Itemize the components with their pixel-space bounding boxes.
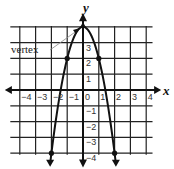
- x-tick-label: −2: [53, 92, 63, 102]
- x-axis-left-arrow-icon: [5, 86, 12, 94]
- x-tick-label: −3: [37, 92, 47, 102]
- y-tick-label: −1: [86, 106, 96, 116]
- data-point: [96, 56, 101, 61]
- x-tick-label: −1: [69, 92, 79, 102]
- x-tick-label: 3: [132, 92, 137, 102]
- data-point: [65, 56, 70, 61]
- vertex-point: [80, 22, 86, 28]
- tick-labels: −4−3−2−101234321−1−2−3−4: [21, 43, 152, 164]
- parabola-graph: −4−3−2−101234321−1−2−3−4 vertex x y: [0, 0, 174, 169]
- x-axis-right-arrow-icon: [154, 86, 161, 94]
- y-tick-label: 2: [86, 58, 91, 68]
- curve-arrow-icon: [112, 160, 120, 167]
- x-tick-label: 2: [116, 92, 121, 102]
- x-tick-label: 4: [148, 92, 153, 102]
- data-point: [112, 151, 117, 156]
- axes: [5, 13, 161, 167]
- data-point: [49, 151, 54, 156]
- x-tick-label: 0: [85, 92, 90, 102]
- x-tick-label: 1: [100, 92, 105, 102]
- y-tick-label: 3: [86, 43, 91, 53]
- y-axis-label: y: [81, 0, 89, 15]
- vertex-label: vertex: [11, 43, 39, 55]
- y-tick-label: 1: [86, 74, 91, 84]
- y-tick-label: −3: [86, 137, 96, 147]
- y-tick-label: −4: [86, 153, 96, 163]
- curve-arrow-icon: [46, 160, 54, 167]
- x-axis-label: x: [162, 83, 170, 98]
- y-tick-label: −2: [86, 122, 96, 132]
- x-tick-label: −4: [21, 92, 31, 102]
